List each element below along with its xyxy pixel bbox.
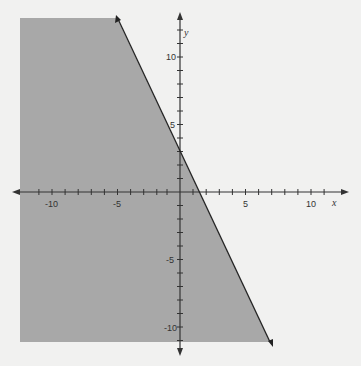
x-axis-right-arrow-icon	[341, 189, 349, 195]
y-tick-label: 5	[170, 120, 175, 130]
graph-container: -10 -5 5 10 x 10 5 -5 -10 y	[0, 0, 361, 366]
y-tick-label: -10	[164, 323, 177, 333]
y-axis-top-arrow-icon	[177, 12, 183, 20]
coordinate-plane: -10 -5 5 10 x 10 5 -5 -10 y	[0, 0, 361, 366]
shaded-region	[20, 18, 270, 342]
y-axis-bottom-arrow-icon	[177, 348, 183, 356]
x-axis-left-arrow-icon	[12, 189, 20, 195]
x-tick-label: 10	[306, 199, 316, 209]
x-tick-label: 5	[243, 199, 248, 209]
y-axis-label: y	[183, 27, 189, 38]
y-tick-label: 10	[166, 52, 176, 62]
x-tick-label: -10	[45, 199, 58, 209]
y-tick-label: -5	[166, 255, 174, 265]
x-tick-label: -5	[113, 199, 121, 209]
x-axis-label: x	[331, 197, 337, 208]
